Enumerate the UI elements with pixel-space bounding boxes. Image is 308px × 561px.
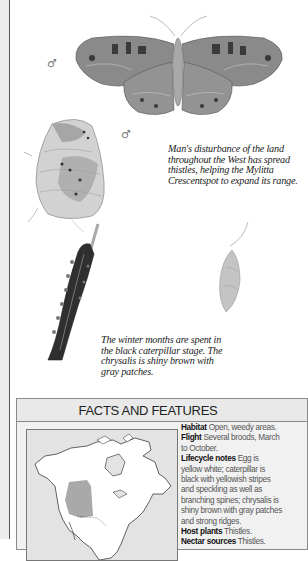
fact-value: Several broods, March	[201, 433, 279, 442]
fact-flight: Flight Several broods, March	[181, 433, 303, 443]
winter-caption: The winter months are spent in the black…	[101, 335, 241, 377]
fact-value: and strong ridges.	[181, 517, 303, 527]
fact-label: Lifecycle notes	[181, 454, 236, 463]
fact-host-plants: Host plants Thistles.	[181, 527, 303, 537]
fact-value: Egg is	[236, 454, 259, 463]
fact-habitat: Habitat Open, weedy areas.	[181, 423, 303, 433]
fact-value: black with yellowish stripes	[181, 475, 303, 485]
fact-nectar-sources: Nectar sources Thistles.	[181, 537, 303, 547]
page-gutter	[0, 0, 9, 539]
fact-value: Thistles.	[222, 527, 252, 536]
butterfly-underside-illustration	[22, 112, 122, 238]
range-area	[65, 480, 93, 518]
fact-label: Habitat	[181, 423, 207, 432]
fact-value: branching spines; chrysalis is	[181, 496, 303, 506]
fact-value: to October.	[181, 444, 303, 454]
fact-value: Thistles.	[236, 537, 266, 546]
caption-line: Man's disturbance of the land	[168, 144, 298, 155]
facts-header: FACTS AND FEATURES	[17, 399, 307, 422]
caterpillar-illustration	[38, 222, 108, 362]
caption-line: gray patches.	[101, 367, 241, 378]
facts-title: FACTS AND FEATURES	[17, 403, 279, 418]
north-america-map	[27, 430, 177, 560]
range-map	[26, 429, 178, 561]
fact-label: Flight	[181, 433, 201, 442]
fact-value: Open, weedy areas.	[207, 423, 277, 432]
caption-line: The winter months are spent in	[101, 335, 241, 346]
male-symbol-icon: ♂	[47, 58, 57, 69]
fact-value: shiny brown with gray patches	[181, 506, 303, 516]
fact-label: Host plants	[181, 527, 222, 536]
facts-text: Habitat Open, weedy areas. Flight Severa…	[181, 423, 303, 548]
range-caption: Man's disturbance of the land throughout…	[168, 144, 298, 186]
fact-label: Nectar sources	[181, 537, 236, 546]
fact-lifecycle: Lifecycle notes Egg is	[181, 454, 303, 464]
male-symbol-icon: ♂	[121, 129, 131, 140]
fact-value: and speckling as well as	[181, 485, 303, 495]
facts-and-features-panel: FACTS AND FEATURES Habitat Open, weedy a…	[16, 398, 308, 550]
caption-line: Crescentspot to expand its range.	[168, 176, 298, 187]
fact-value: yellow white; caterpillar is	[181, 465, 303, 475]
butterfly-upperside-illustration	[72, 14, 288, 120]
chrysalis-illustration	[214, 220, 254, 320]
